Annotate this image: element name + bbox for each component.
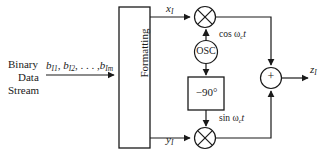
signal-xt-label: xI — [166, 2, 173, 16]
signal-yt-label: yI — [166, 133, 173, 147]
block-phase-shift-label: −90° — [189, 86, 224, 98]
bit-ellipsis: , . . . , — [75, 59, 100, 71]
sin-prefix: sin — [219, 113, 232, 123]
diagram-canvas: Binary Data Stream bI1, bI2, . . . ,bIm … — [0, 0, 334, 154]
bit-sequence-label: bI1, bI2, . . . ,bIm — [46, 59, 113, 73]
signal-zt-label: zI — [310, 63, 317, 77]
sin-var: t — [242, 113, 245, 123]
carrier-sin-label: sin ωct — [219, 113, 244, 124]
cos-prefix: cos — [219, 29, 234, 39]
block-formatting-label: Formatting — [138, 21, 150, 85]
source-label-line2: Data — [18, 71, 39, 83]
carrier-cos-label: cos ωct — [219, 29, 246, 40]
diagram-wires — [0, 0, 334, 154]
source-label-line3: Stream — [8, 84, 39, 96]
summer-plus-label: + — [261, 70, 281, 83]
xt-sub: I — [171, 7, 174, 16]
bit-sub-3: Im — [105, 64, 113, 73]
wire-upper-to-summer — [216, 17, 272, 65]
source-label-line1: Binary — [8, 58, 38, 70]
zt-sub: I — [314, 68, 317, 77]
yt-sub: I — [171, 138, 174, 147]
cos-var: t — [243, 29, 246, 39]
block-oscillator-label: OSC — [193, 45, 219, 56]
